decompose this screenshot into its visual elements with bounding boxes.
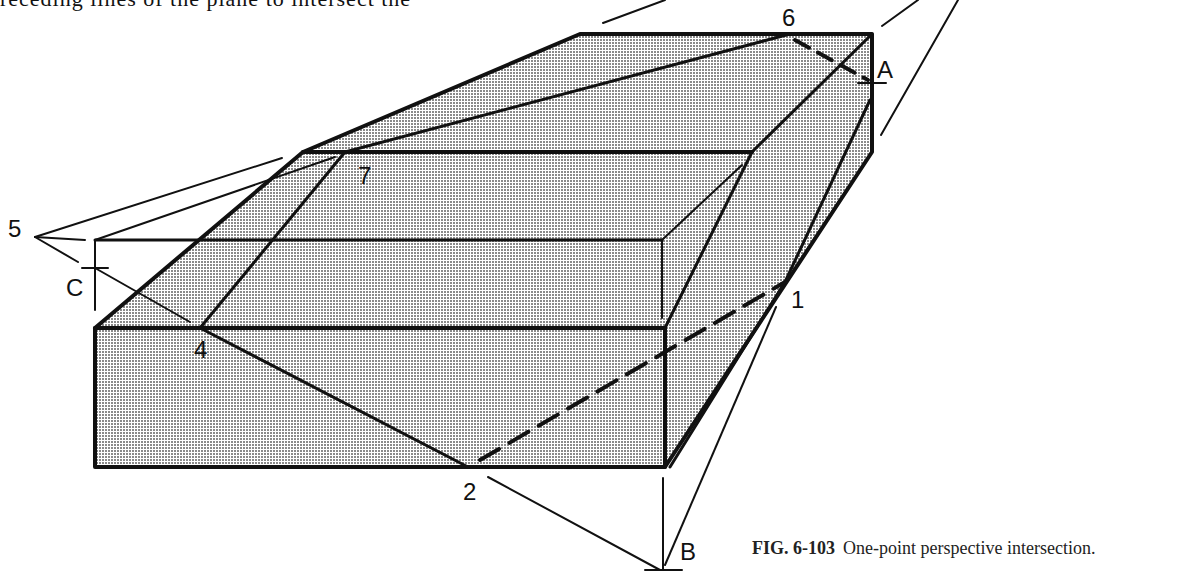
construction-2-B <box>488 477 660 570</box>
figure-number: FIG. 6-103 <box>752 538 835 558</box>
shaded-top-face <box>95 34 872 467</box>
label-point-1: 1 <box>791 286 804 313</box>
construction-A-upper <box>882 0 918 26</box>
construction-5-C <box>35 237 78 262</box>
label-point-B: B <box>680 538 696 565</box>
label-point-4: 4 <box>194 336 207 363</box>
construction-5-mid <box>35 237 85 240</box>
label-point-A: A <box>877 56 893 83</box>
label-point-7: 7 <box>358 162 371 189</box>
label-point-2: 2 <box>463 478 476 505</box>
perspective-diagram: 6 A 7 5 C 4 1 2 B <box>0 0 1194 582</box>
construction-top-left <box>603 0 665 23</box>
label-point-C: C <box>66 274 83 301</box>
figure-caption: FIG. 6-103One-point perspective intersec… <box>752 538 1095 559</box>
label-point-5: 5 <box>8 215 21 242</box>
figure-title: One-point perspective intersection. <box>843 538 1095 558</box>
label-point-6: 6 <box>782 4 795 31</box>
